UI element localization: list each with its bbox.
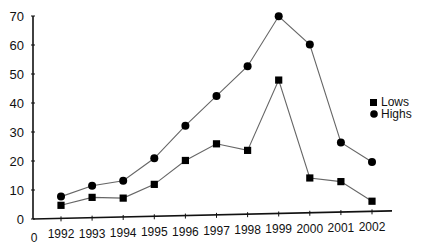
- x-tick-label: 1995: [141, 225, 168, 239]
- line-chart: 010203040506070 019921993199419951996199…: [0, 0, 423, 247]
- circle-marker-icon: [119, 177, 127, 185]
- y-tick-label: 0: [17, 212, 24, 227]
- square-marker-icon: [368, 198, 375, 205]
- legend: Lows Highs: [370, 95, 412, 121]
- y-tick-label: 40: [10, 96, 24, 111]
- x-axis: 0199219931994199519961997199819992000200…: [31, 209, 392, 245]
- circle-marker-icon: [88, 182, 96, 190]
- circle-marker-icon: [150, 154, 158, 162]
- y-axis: 010203040506070: [10, 9, 35, 227]
- y-tick-label: 20: [10, 154, 24, 169]
- x-tick-label: 1997: [203, 224, 230, 238]
- circle-marker-icon: [306, 41, 314, 49]
- legend-lows-marker-icon: [370, 99, 377, 106]
- square-marker-icon: [213, 140, 220, 147]
- square-marker-icon: [151, 181, 158, 188]
- y-tick-label: 10: [10, 183, 24, 198]
- x-tick-label: 2001: [328, 221, 355, 235]
- circle-marker-icon: [337, 138, 345, 146]
- square-marker-icon: [337, 178, 344, 185]
- x-tick-label: 1994: [110, 226, 137, 240]
- y-tick-label: 30: [10, 125, 24, 140]
- square-marker-icon: [57, 202, 64, 209]
- x-tick-label: 2000: [296, 222, 323, 236]
- series-layer: [57, 12, 376, 209]
- square-marker-icon: [244, 147, 251, 154]
- legend-highs-label: Highs: [381, 107, 412, 121]
- y-tick-label: 70: [10, 9, 24, 24]
- square-marker-icon: [275, 76, 282, 83]
- square-marker-icon: [89, 194, 96, 201]
- x-tick-label: 1999: [265, 222, 292, 236]
- chart-canvas: 010203040506070 019921993199419951996199…: [0, 0, 423, 247]
- x-tick-label: 1996: [172, 225, 199, 239]
- x-origin-label: 0: [31, 231, 38, 245]
- series-line-highs: [61, 16, 372, 196]
- x-tick-label: 1998: [234, 223, 261, 237]
- x-tick-label: 2002: [359, 220, 386, 234]
- y-tick-label: 50: [10, 67, 24, 82]
- legend-highs-marker-icon: [370, 110, 378, 118]
- circle-marker-icon: [57, 193, 65, 201]
- square-marker-icon: [306, 174, 313, 181]
- circle-marker-icon: [181, 122, 189, 130]
- square-marker-icon: [120, 195, 127, 202]
- x-tick-label: 1993: [79, 227, 106, 241]
- circle-marker-icon: [213, 92, 221, 100]
- circle-marker-icon: [368, 158, 376, 166]
- x-tick-label: 1992: [48, 227, 75, 241]
- y-tick-label: 60: [10, 38, 24, 53]
- square-marker-icon: [182, 157, 189, 164]
- circle-marker-icon: [275, 12, 283, 20]
- circle-marker-icon: [244, 62, 252, 70]
